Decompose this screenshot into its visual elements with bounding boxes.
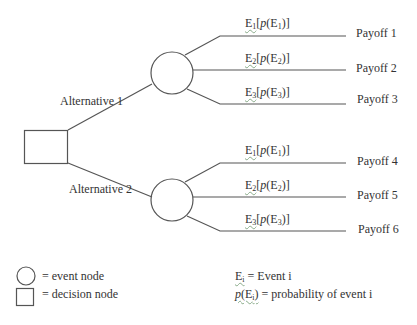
alternative-1-label: Alternative 1: [60, 94, 123, 108]
event-label-1-1: E1[p(E1)]: [245, 16, 290, 34]
event-node-1: [151, 52, 193, 94]
decision-node: [25, 131, 68, 164]
payoff-5: Payoff 5: [357, 188, 398, 202]
event-label-2-3: E3[p(E3)]: [245, 212, 290, 230]
event-node-2: [151, 179, 193, 221]
payoff-4: Payoff 4: [357, 154, 398, 168]
payoff-1: Payoff 1: [356, 26, 397, 40]
alternative-2-label: Alternative 2: [69, 182, 132, 196]
event-label-1-2: E2[p(E2)]: [245, 51, 290, 69]
legend-decision-node-label: = decision node: [42, 287, 118, 302]
event-label-2-1: E1[p(E1)]: [245, 143, 290, 161]
event-label-2-2: E2[p(E2)]: [245, 178, 290, 196]
payoff-3: Payoff 3: [357, 92, 398, 106]
legend-event-node-label: = event node: [42, 269, 104, 284]
event-label-1-3: E3[p(E3)]: [245, 85, 290, 103]
payoff-2: Payoff 2: [356, 61, 397, 75]
legend-probability-definition: p(Ei) = probability of event i: [235, 287, 372, 302]
legend-event-node-icon: [17, 267, 35, 285]
payoff-6: Payoff 6: [358, 222, 399, 236]
legend-decision-node-icon: [17, 289, 34, 306]
legend-event-definition: Ei = Event i: [235, 269, 292, 284]
